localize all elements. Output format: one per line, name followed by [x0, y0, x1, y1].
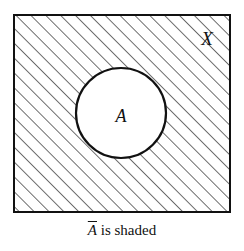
caption: A is shaded [0, 222, 244, 239]
universe-label: X [200, 28, 214, 49]
caption-set-complement: A [88, 222, 97, 238]
venn-diagram: X A [0, 0, 244, 251]
caption-text: is shaded [97, 222, 156, 238]
set-label: A [115, 106, 128, 126]
